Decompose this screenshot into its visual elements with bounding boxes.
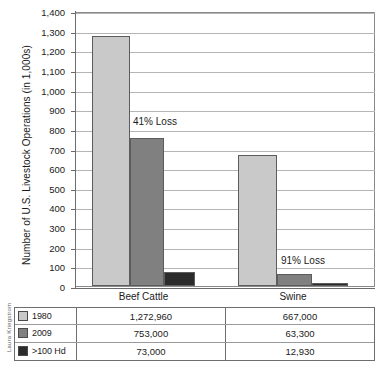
bar-beef-cattle-1980	[92, 36, 130, 286]
legend-entry-over-100-hd: >100 Hd	[15, 343, 77, 360]
y-axis-tick	[71, 209, 76, 210]
table-row: 1980 1,272,960 667,000	[15, 308, 374, 325]
table-cell-beef-2009: 753,000	[77, 325, 226, 341]
y-axis-tick	[71, 288, 76, 289]
y-axis-tick	[71, 229, 76, 230]
table-cell-beef-1980: 1,272,960	[77, 308, 226, 324]
y-axis-tick	[71, 190, 76, 191]
y-axis-tick	[71, 52, 76, 53]
y-axis-tick-label: 100	[5, 263, 65, 272]
y-axis-tick-label: 1,100	[5, 67, 65, 76]
y-axis-tick	[71, 268, 76, 269]
annotation-41-loss: 41% Loss	[133, 116, 177, 127]
chart-figure: Laura Kriegstrom Number of U.S. Livestoc…	[0, 0, 387, 373]
y-axis-tick	[71, 111, 76, 112]
legend-swatch-icon	[18, 328, 28, 338]
legend-swatch-icon	[18, 346, 28, 356]
y-axis-tick	[71, 92, 76, 93]
table-cell-swine-over100: 12,930	[226, 343, 374, 360]
gridline	[76, 33, 375, 34]
table-row: >100 Hd 73,000 12,930	[15, 343, 374, 360]
x-axis-label-swine: Swine	[233, 291, 353, 302]
legend-label: >100 Hd	[32, 346, 66, 356]
legend-swatch-icon	[18, 311, 28, 321]
bar-swine-2009	[277, 274, 312, 286]
credit-text: Laura Kriegstrom	[6, 290, 12, 352]
legend-entry-2009: 2009	[15, 325, 77, 341]
legend-label: 1980	[32, 311, 52, 321]
y-axis-tick-label: 1,400	[5, 8, 65, 17]
legend-label: 2009	[32, 328, 52, 338]
y-axis-tick-label: 1,200	[5, 47, 65, 56]
legend-entry-1980: 1980	[15, 308, 77, 324]
annotation-91-loss: 91% Loss	[281, 255, 325, 266]
y-axis-tick-label: 300	[5, 224, 65, 233]
y-axis-tick-label: 200	[5, 244, 65, 253]
bar-swine--100-hd	[312, 283, 348, 286]
table-row: 2009 753,000 63,300	[15, 325, 374, 342]
plot-area: 1,4001,3001,2001,1001,000900800700600500…	[76, 12, 375, 287]
y-axis-tick-label: 800	[5, 126, 65, 135]
y-axis-tick-label: 400	[5, 204, 65, 213]
y-axis-tick	[71, 249, 76, 250]
y-axis-tick-label: 1,300	[5, 28, 65, 37]
y-axis-tick-label: 900	[5, 106, 65, 115]
y-axis-tick	[71, 33, 76, 34]
y-axis-tick	[71, 72, 76, 73]
y-axis-tick	[71, 13, 76, 14]
bar-beef-cattle-2009	[130, 138, 164, 286]
bar-swine-1980	[238, 155, 277, 286]
gridline	[76, 288, 375, 289]
y-axis-tick-label: 600	[5, 165, 65, 174]
x-axis-label-beef-cattle: Beef Cattle	[84, 291, 204, 302]
gridline	[76, 13, 375, 14]
y-axis-tick-label: 1,000	[5, 87, 65, 96]
y-axis-tick-label: 0	[5, 283, 65, 292]
y-axis-tick	[71, 151, 76, 152]
table-cell-beef-over100: 73,000	[77, 343, 226, 360]
y-axis-tick	[71, 131, 76, 132]
y-axis-tick	[71, 170, 76, 171]
legend-data-table: 1980 1,272,960 667,000 2009 753,000 63,3…	[14, 307, 375, 361]
table-cell-swine-2009: 63,300	[226, 325, 374, 341]
y-axis-tick-label: 500	[5, 185, 65, 194]
bar-beef-cattle--100-hd	[164, 272, 195, 286]
y-axis-tick-label: 700	[5, 146, 65, 155]
table-cell-swine-1980: 667,000	[226, 308, 374, 324]
